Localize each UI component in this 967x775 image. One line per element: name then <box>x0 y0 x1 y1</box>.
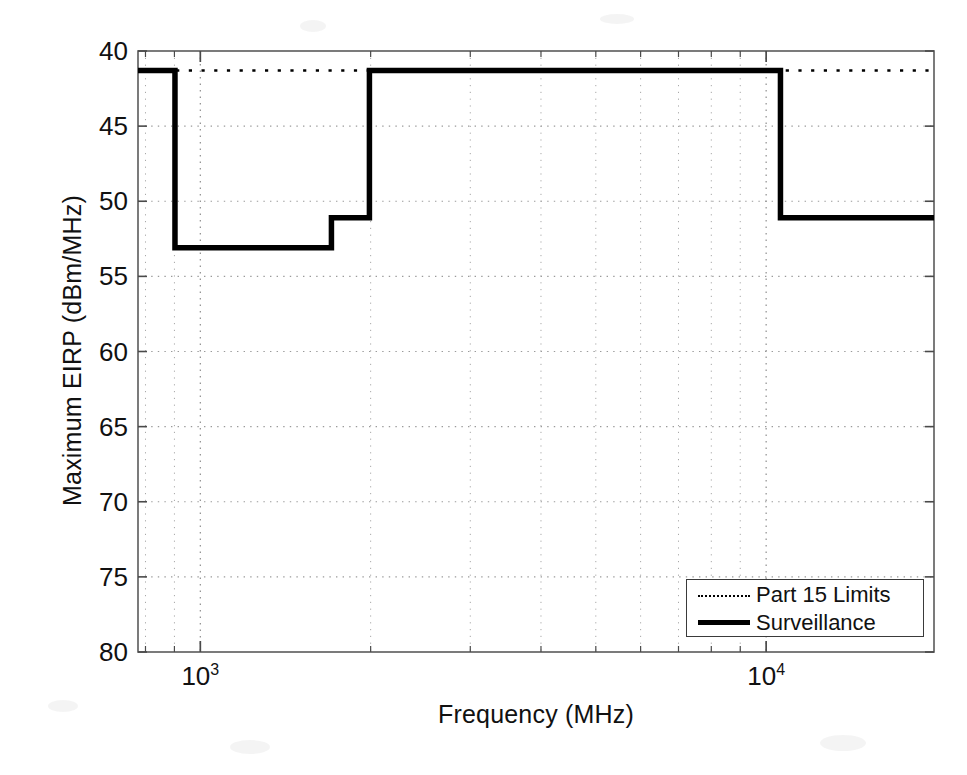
legend-label-part-15-limits: Part 15 Limits <box>756 584 891 606</box>
legend: Part 15 Limits Surveillance <box>686 579 924 637</box>
x-tick-label: 104 <box>747 663 785 689</box>
legend-entry-part-15-limits: Part 15 Limits <box>687 580 923 609</box>
series-line-surveillance <box>138 71 934 248</box>
y-tick-label: 70 <box>80 489 128 515</box>
data-series-layer <box>138 71 934 248</box>
y-tick-label: 65 <box>80 414 128 440</box>
chart-figure: 404550556065707580 103104 Maximum EIRP (… <box>0 0 967 775</box>
y-tick-label: 80 <box>80 639 128 665</box>
x-axis-title: Frequency (MHz) <box>138 700 934 729</box>
gridlines <box>138 51 934 652</box>
y-tick-label: 40 <box>80 38 128 64</box>
legend-label-surveillance: Surveillance <box>756 612 876 634</box>
dotted-line-swatch-icon <box>696 585 752 605</box>
y-tick-label: 60 <box>80 339 128 365</box>
y-tick-label: 55 <box>80 263 128 289</box>
y-axis-title: Maximum EIRP (dBm/MHz) <box>58 116 87 586</box>
plot-canvas <box>0 0 967 775</box>
y-tick-label: 50 <box>80 188 128 214</box>
y-tick-label: 75 <box>80 564 128 590</box>
y-tick-label: 45 <box>80 113 128 139</box>
solid-line-swatch-icon <box>696 613 752 633</box>
x-tick-label: 103 <box>181 663 219 689</box>
legend-entry-surveillance: Surveillance <box>687 608 923 637</box>
x-axis-tick-labels: 103104 <box>0 663 967 703</box>
